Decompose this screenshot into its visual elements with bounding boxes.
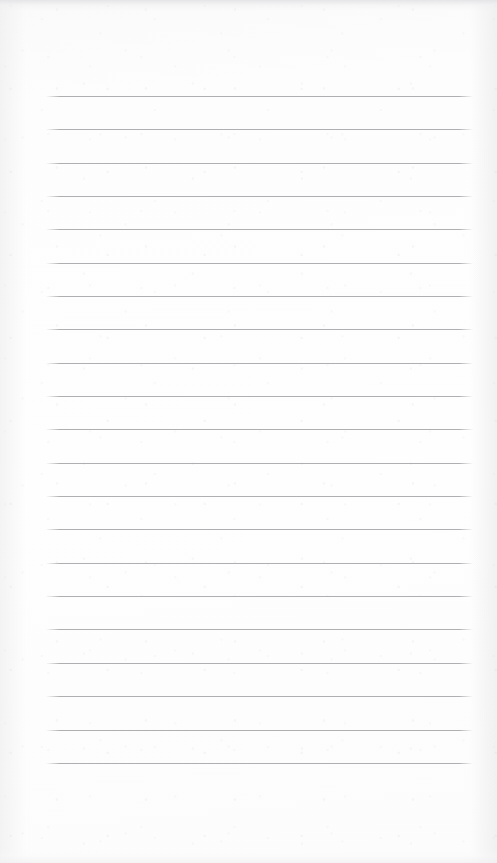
- notebook-page: [0, 0, 497, 863]
- writing-area[interactable]: [46, 64, 473, 764]
